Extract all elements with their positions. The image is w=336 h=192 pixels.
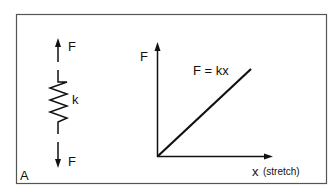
y-axis-label: F: [140, 50, 148, 63]
top-force-label: F: [68, 40, 76, 53]
x-axis-label: x: [252, 165, 259, 178]
spring-constant-label: k: [72, 93, 79, 106]
panel-label: A: [20, 169, 29, 182]
x-axis-sublabel: (stretch): [263, 167, 300, 177]
equation-label: F = kx: [193, 64, 229, 77]
panel-border: [17, 15, 327, 184]
hookes-law-figure: [0, 0, 336, 192]
bottom-force-label: F: [68, 155, 76, 168]
